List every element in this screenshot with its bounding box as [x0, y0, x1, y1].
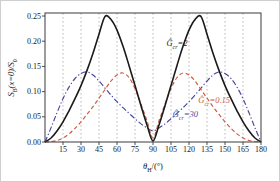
- x-axis-label: θH/(°): [143, 161, 163, 171]
- y-tick-label: 0.10: [15, 87, 41, 96]
- x-tick-label: 120: [183, 145, 195, 154]
- x-tick-label: 45: [95, 145, 103, 154]
- x-tick-label: 165: [237, 145, 249, 154]
- y-tick-label: 0.00: [15, 138, 41, 147]
- x-tick-label: 150: [219, 145, 231, 154]
- x-tick-label: 135: [201, 145, 213, 154]
- y-tick-label: 0.05: [15, 112, 41, 121]
- x-tick-label: 105: [165, 145, 177, 154]
- y-axis-label: SB(x=0)/S0: [6, 59, 16, 96]
- curve-label-black-solid: Ĝcr=2: [166, 38, 187, 48]
- x-tick-label: 15: [59, 145, 67, 154]
- chart-figure: 0.000.050.100.150.200.25 153045607590105…: [0, 0, 280, 182]
- y-tick-label: 0.15: [15, 62, 41, 71]
- curve-label-blue-dashdot: Ĝcr=30: [173, 109, 198, 119]
- x-tick-label: 180: [255, 145, 267, 154]
- plot-area: [1, 1, 280, 182]
- x-tick-label: 30: [77, 145, 85, 154]
- x-tick-label: 90: [149, 145, 157, 154]
- y-tick-label: 0.25: [15, 12, 41, 21]
- curve-label-red-dashed: Ĝcr=0.15: [198, 95, 230, 105]
- x-tick-label: 75: [131, 145, 139, 154]
- y-tick-label: 0.20: [15, 37, 41, 46]
- x-tick-label: 60: [113, 145, 121, 154]
